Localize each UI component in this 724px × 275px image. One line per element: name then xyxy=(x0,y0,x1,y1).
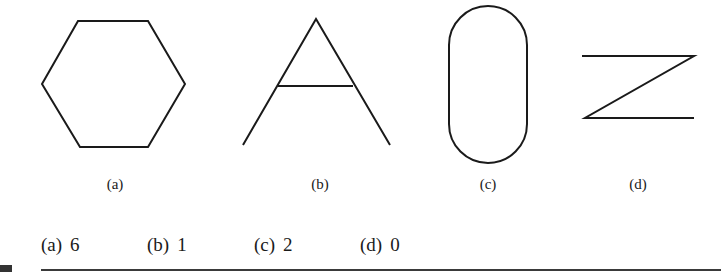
answer-c: (c)2 xyxy=(254,233,293,257)
answer-value: 0 xyxy=(390,234,400,255)
figure-label-b: (b) xyxy=(311,175,329,193)
answer-a: (a)6 xyxy=(41,233,80,257)
answer-option-label: (a) xyxy=(41,234,62,255)
figure-drawings xyxy=(0,0,724,200)
figure-label-c: (c) xyxy=(480,175,497,193)
answer-b: (b)1 xyxy=(147,233,187,257)
letter-z-shape xyxy=(582,56,694,118)
stadium-shape xyxy=(449,6,527,163)
margin-marker xyxy=(0,265,12,272)
figure-label-d: (d) xyxy=(629,175,647,193)
answer-row: (a)6 (b)1 (c)2 (d)0 xyxy=(41,233,721,257)
answer-value: 1 xyxy=(177,234,187,255)
answer-d: (d)0 xyxy=(360,233,400,257)
horizontal-rule xyxy=(41,269,721,271)
answer-value: 2 xyxy=(283,234,293,255)
letter-a-shape xyxy=(243,19,390,145)
answer-option-label: (d) xyxy=(360,234,382,255)
answer-option-label: (b) xyxy=(147,234,169,255)
hexagon-shape xyxy=(42,21,185,147)
figure-panel: (a) (b) (c) (d) xyxy=(0,0,724,200)
answer-option-label: (c) xyxy=(254,234,275,255)
answer-value: 6 xyxy=(70,234,80,255)
figure-label-a: (a) xyxy=(107,175,124,193)
